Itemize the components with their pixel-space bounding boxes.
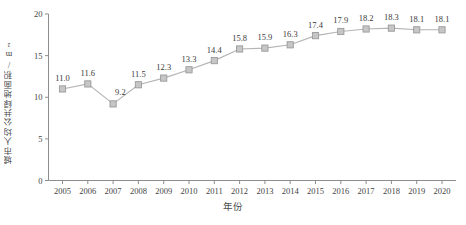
data-point-value-label: 17.4 <box>308 20 324 30</box>
x-tick-label: 2011 <box>206 186 223 196</box>
data-point-marker <box>262 45 268 51</box>
y-tick-label: 5 <box>38 134 42 144</box>
x-tick-label: 2017 <box>358 186 375 196</box>
data-point-marker <box>85 81 91 87</box>
data-point-marker <box>135 82 141 88</box>
data-point-value-label: 11.6 <box>81 68 96 78</box>
chart-axes <box>49 14 457 181</box>
x-tick-label: 2016 <box>332 186 349 196</box>
data-point-value-label: 17.9 <box>333 15 348 25</box>
data-point-value-label: 9.2 <box>115 87 126 97</box>
x-tick-label: 2006 <box>79 186 96 196</box>
x-tick-label: 2012 <box>231 186 248 196</box>
data-point-marker <box>110 101 116 107</box>
x-tick-label: 2015 <box>307 186 324 196</box>
y-tick-label: 20 <box>34 9 43 19</box>
data-point-value-label: 12.3 <box>156 62 171 72</box>
data-point-value-label: 11.0 <box>55 73 70 83</box>
data-point-value-label: 18.2 <box>359 13 374 23</box>
x-tick-label: 2020 <box>434 186 451 196</box>
x-tick-label: 2013 <box>256 186 273 196</box>
x-tick-label: 2008 <box>130 186 147 196</box>
data-point-marker <box>287 42 293 48</box>
x-tick-label: 2019 <box>408 186 425 196</box>
data-point-marker <box>237 46 243 52</box>
x-tick-label: 2005 <box>54 186 71 196</box>
x-tick-label: 2007 <box>105 186 122 196</box>
y-tick-label: 10 <box>34 92 43 102</box>
data-point-value-label: 18.1 <box>409 14 424 24</box>
data-point-marker <box>338 28 344 34</box>
y-axis-ticks: 05101520 <box>34 9 49 186</box>
data-point-value-label: 18.3 <box>384 12 399 22</box>
data-point-marker <box>439 27 445 33</box>
data-point-marker <box>186 67 192 73</box>
x-tick-label: 2010 <box>181 186 198 196</box>
x-axis-tick-labels: 2005200620072008200920102011201220132014… <box>54 186 451 196</box>
x-tick-label: 2018 <box>383 186 400 196</box>
data-point-value-label: 14.4 <box>207 45 223 55</box>
data-point-value-label: 15.9 <box>257 32 272 42</box>
data-point-marker <box>388 25 394 31</box>
y-tick-label: 0 <box>38 176 42 186</box>
data-point-marker <box>312 33 318 39</box>
data-point-value-label: 13.3 <box>182 54 197 64</box>
y-tick-label: 15 <box>34 51 43 61</box>
x-axis-title: 年份 <box>0 199 466 213</box>
data-point-marker <box>59 86 65 92</box>
data-point-value-label: 15.8 <box>232 33 247 43</box>
x-tick-label: 2014 <box>282 186 300 196</box>
chart-plot-area: 05101520 11.011.69.211.512.313.314.415.8… <box>0 0 466 225</box>
x-axis-ticks <box>63 181 443 185</box>
data-point-value-label: 11.5 <box>131 69 146 79</box>
chart-container: 城市人均公共绿地面积/m² 05101520 11.011.69.211.512… <box>0 0 466 225</box>
x-tick-label: 2009 <box>155 186 172 196</box>
data-point-marker <box>363 26 369 32</box>
data-point-value-label: 18.1 <box>435 14 450 24</box>
data-point-marker <box>211 58 217 64</box>
data-point-value-label: 16.3 <box>283 29 298 39</box>
data-point-marker <box>161 75 167 81</box>
data-point-marker <box>414 27 420 33</box>
